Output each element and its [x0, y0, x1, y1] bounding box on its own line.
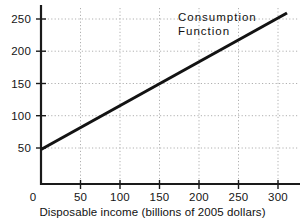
ytick-label-50: 50: [2, 142, 31, 154]
consumption-function-annotation: Consumption Function: [178, 10, 257, 38]
xtick-label-150: 150: [150, 191, 170, 203]
xtick-label-200: 200: [189, 191, 209, 203]
x-axis-title: Disposable income (billions of 2005 doll…: [0, 206, 305, 218]
xtick-label-0: 0: [30, 191, 37, 203]
xtick-label-100: 100: [110, 191, 130, 203]
xtick-label-300: 300: [268, 191, 288, 203]
ytick-label-150: 150: [2, 78, 31, 90]
ytick-label-250: 250: [2, 13, 31, 25]
xtick-label-250: 250: [229, 191, 249, 203]
xtick-label-50: 50: [74, 191, 87, 203]
ytick-label-100: 100: [2, 110, 31, 122]
consumption-function-chart: 250 200 150 100 50 0 50 100 150 200 250 …: [0, 0, 305, 224]
annotation-line-2: Function: [178, 24, 257, 38]
annotation-line-1: Consumption: [178, 11, 257, 23]
ytick-label-200: 200: [2, 45, 31, 57]
